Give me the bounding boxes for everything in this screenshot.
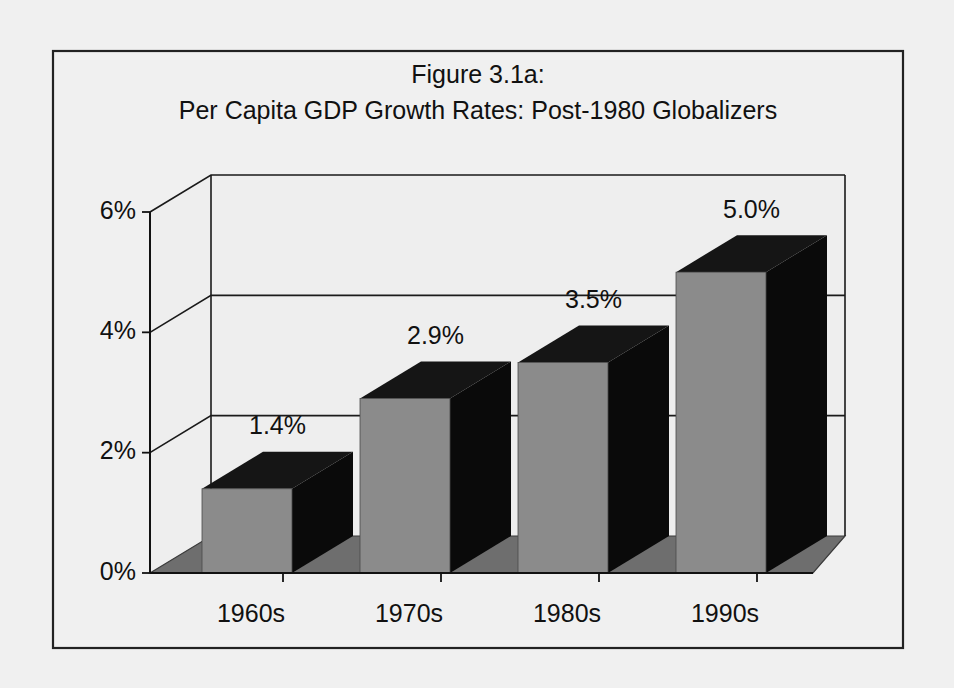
y-tick-label-2: 2%: [100, 436, 136, 464]
category-label-1970s: 1970s: [375, 599, 443, 627]
bar-side-face-1970s: [450, 362, 511, 573]
bar-front-face-1990s: [676, 272, 766, 573]
value-label-1980s: 3.5%: [565, 285, 622, 313]
bar-side-face-1990s: [766, 235, 827, 573]
bar-front-face-1980s: [518, 362, 608, 573]
chart-title-line-2: Per Capita GDP Growth Rates: Post-1980 G…: [179, 96, 777, 124]
y-tick-label-4: 4%: [100, 316, 136, 344]
category-label-1960s: 1960s: [217, 599, 285, 627]
category-label-1990s: 1990s: [691, 599, 759, 627]
y-tick-label-6: 6%: [100, 196, 136, 224]
value-label-1990s: 5.0%: [723, 195, 780, 223]
plot-area: 1.4%1960s2.9%1970s3.5%1980s5.0%1990s0%2%…: [100, 175, 845, 627]
category-label-1980s: 1980s: [533, 599, 601, 627]
y-tick-label-0: 0%: [100, 557, 136, 585]
chart-canvas: Figure 3.1a: Per Capita GDP Growth Rates…: [0, 0, 954, 688]
bar-1990s: [676, 235, 827, 573]
value-label-1960s: 1.4%: [249, 411, 306, 439]
bar-1970s: [360, 362, 511, 573]
bar-front-face-1970s: [360, 399, 450, 573]
figure-container: Figure 3.1a: Per Capita GDP Growth Rates…: [0, 0, 954, 688]
bar-front-face-1960s: [202, 489, 292, 573]
chart-title-line-1: Figure 3.1a:: [411, 60, 544, 88]
bar-side-face-1980s: [608, 325, 669, 573]
value-label-1970s: 2.9%: [407, 321, 464, 349]
bar-1980s: [518, 325, 669, 573]
